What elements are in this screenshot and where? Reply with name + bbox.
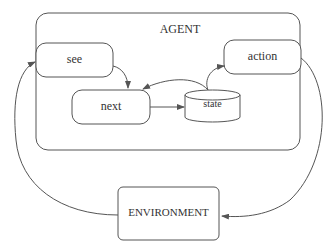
environment-label: ENVIRONMENT	[118, 206, 219, 218]
edge-state-to-action	[207, 66, 224, 90]
edge-environment-to-see	[15, 62, 118, 215]
action-label: action	[224, 49, 301, 64]
state-label: state	[185, 98, 240, 109]
agent-label: AGENT	[150, 22, 210, 37]
edge-see-to-next	[113, 66, 128, 88]
edge-action-to-environment	[222, 58, 322, 217]
edge-state-to-next	[143, 80, 208, 90]
next-label: next	[72, 99, 150, 114]
see-label: see	[36, 52, 113, 67]
